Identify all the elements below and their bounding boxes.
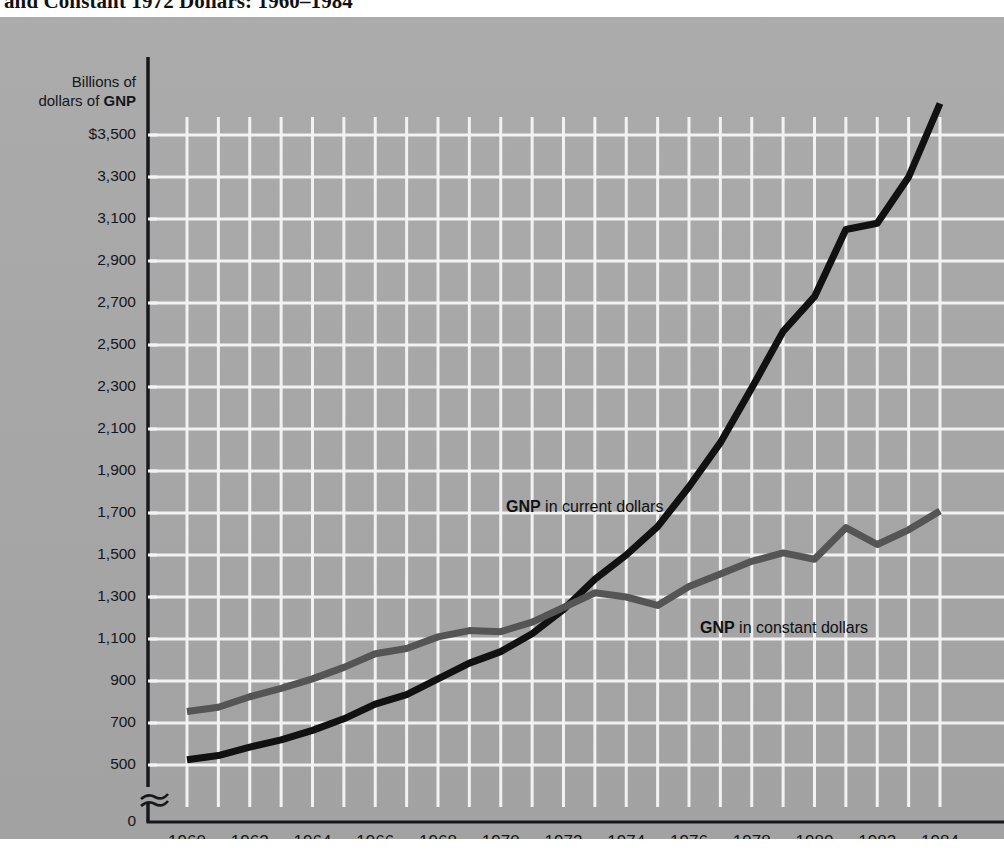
series-label-current-dollars: GNP in current dollars	[506, 498, 663, 516]
y-axis-tick-label: 3,100	[16, 209, 136, 227]
series-label-current-bold: GNP	[506, 498, 541, 515]
series-label-constant-dollars: GNP in constant dollars	[700, 619, 868, 637]
series-label-constant-bold: GNP	[700, 619, 735, 636]
y-axis-tick-label: 2,700	[16, 293, 136, 311]
y-axis-caption: Billions of dollars of GNP	[16, 72, 136, 110]
y-axis-caption-gnp: GNP	[103, 92, 136, 109]
y-axis-tick-label: 700	[16, 713, 136, 731]
axis-break-symbol-lower	[141, 801, 168, 806]
y-axis-tick-label: 2,100	[16, 419, 136, 437]
figure-title-strip: and Constant 1972 Dollars: 1960–1984	[0, 0, 1004, 17]
y-axis-tick-label: 1,500	[16, 545, 136, 563]
axis-break-symbol-upper	[141, 794, 168, 799]
y-axis-caption-line1: Billions of	[72, 73, 136, 90]
y-axis-tick-label: 0	[16, 812, 136, 830]
y-axis-tick-label: 2,300	[16, 377, 136, 395]
y-axis-tick-label: 1,900	[16, 461, 136, 479]
y-axis-tick-label: $3,500	[16, 125, 136, 143]
y-axis-tick-label: 1,300	[16, 587, 136, 605]
y-axis-tick-label: 3,300	[16, 167, 136, 185]
series-label-current-rest: in current dollars	[541, 498, 664, 515]
series-label-constant-rest: in constant dollars	[735, 619, 868, 636]
y-axis-tick-label: 900	[16, 671, 136, 689]
axis-lines	[141, 57, 1004, 822]
y-axis-caption-line2-prefix: dollars of	[38, 92, 103, 109]
page-title: and Constant 1972 Dollars: 1960–1984	[4, 0, 353, 14]
y-axis-tick-label: 2,500	[16, 335, 136, 353]
y-axis-tick-label: 1,700	[16, 503, 136, 521]
line-chart-canvas	[0, 17, 1004, 839]
y-axis-tick-label: 2,900	[16, 251, 136, 269]
figure-bottom-strip	[0, 839, 1004, 859]
y-axis-tick-label: 1,100	[16, 629, 136, 647]
chart-figure: Billions of dollars of GNP $3,5003,3003,…	[0, 17, 1004, 839]
y-axis-tick-label: 500	[16, 755, 136, 773]
